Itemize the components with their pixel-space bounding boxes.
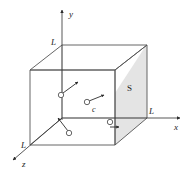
axes-group [13, 10, 180, 160]
particle-upper-left [58, 82, 78, 98]
particle-upper-left-velocity-arrow [63, 82, 78, 93]
figure-canvas: y x z L L L S c [0, 0, 191, 174]
z-axis-label: z [21, 159, 26, 169]
length-label-y: L [50, 37, 56, 47]
y-axis-label: y [68, 9, 73, 19]
particle-upper-left-body [58, 92, 63, 97]
particle-lower-left-velocity-arrow [58, 118, 68, 131]
length-label-z: L [20, 140, 26, 150]
particle-center: c [84, 95, 104, 114]
z-axis-line [13, 118, 62, 160]
length-label-x: L [148, 106, 154, 116]
particle-right-body [107, 119, 112, 124]
x-axis-label: x [173, 122, 178, 132]
particle-center-body [84, 99, 89, 104]
particle-lower-left-body [66, 130, 71, 135]
face-S-shading [115, 44, 147, 145]
face-S-label: S [127, 83, 132, 93]
physics-cube-figure: y x z L L L S c [0, 0, 191, 174]
particle-center-velocity-arrow [89, 95, 104, 101]
particle-lower-left [58, 118, 72, 136]
particle-center-label: c [92, 105, 96, 114]
